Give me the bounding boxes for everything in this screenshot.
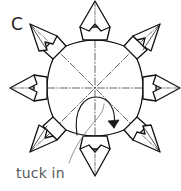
- inner-edge-sw: [66, 130, 95, 136]
- inner-edge-ws: [47, 88, 53, 117]
- inner-edge-es: [137, 88, 143, 117]
- tuck-arrow-icon: [76, 97, 119, 135]
- tuck-in-caption: tuck in: [16, 166, 65, 180]
- step-label: C: [11, 16, 23, 33]
- inner-edge-nw: [66, 40, 95, 46]
- inner-edge-ne: [95, 40, 124, 46]
- inner-edge-se: [95, 130, 124, 136]
- tuck-arrow-head: [108, 120, 119, 128]
- inner-edge-wn: [47, 59, 53, 88]
- figure-page: C tuck in: [0, 0, 181, 191]
- inner-edge-en: [137, 59, 143, 88]
- origami-star-diagram: [0, 0, 181, 191]
